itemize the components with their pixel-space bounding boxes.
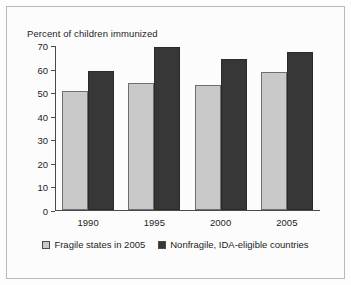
legend-label: Fragile states in 2005 bbox=[54, 239, 145, 250]
dark-swatch-icon bbox=[158, 241, 166, 249]
legend-label: Nonfragile, IDA-eligible countries bbox=[170, 239, 308, 250]
y-tick-label: 0 bbox=[43, 206, 48, 217]
y-tick-label: 70 bbox=[37, 41, 48, 52]
bar-2000-series-2[interactable] bbox=[221, 59, 247, 210]
y-tick-mark bbox=[51, 140, 55, 141]
y-axis-line bbox=[55, 46, 56, 211]
legend-entry-2[interactable]: Nonfragile, IDA-eligible countries bbox=[158, 239, 308, 250]
y-tick-label: 10 bbox=[37, 182, 48, 193]
y-tick-label: 60 bbox=[37, 64, 48, 75]
plot-area: 010203040506070 1990199520002005 bbox=[55, 46, 320, 211]
bar-1995-series-1[interactable] bbox=[128, 83, 154, 210]
bar-2000-series-1[interactable] bbox=[195, 85, 221, 210]
y-tick-mark bbox=[51, 93, 55, 94]
chart-figure: Percent of children immunized 0102030405… bbox=[0, 0, 351, 285]
bar-2005-series-2[interactable] bbox=[287, 52, 313, 210]
y-tick-label: 20 bbox=[37, 158, 48, 169]
x-tick-label-1990: 1990 bbox=[78, 217, 99, 228]
y-tick-mark bbox=[51, 70, 55, 71]
legend-entry-1[interactable]: Fragile states in 2005 bbox=[42, 239, 145, 250]
y-tick-label: 40 bbox=[37, 111, 48, 122]
x-tick-label-2000: 2000 bbox=[210, 217, 231, 228]
y-tick-label: 30 bbox=[37, 135, 48, 146]
y-tick-label: 50 bbox=[37, 88, 48, 99]
chart-legend: Fragile states in 2005Nonfragile, IDA-el… bbox=[0, 239, 351, 250]
x-axis-line bbox=[55, 210, 320, 211]
chart-title: Percent of children immunized bbox=[27, 28, 158, 39]
bar-1995-series-2[interactable] bbox=[154, 47, 180, 210]
light-swatch-icon bbox=[42, 241, 50, 249]
y-tick-mark bbox=[51, 117, 55, 118]
bar-1990-series-2[interactable] bbox=[88, 71, 114, 210]
y-tick-mark bbox=[51, 211, 55, 212]
y-tick-mark bbox=[51, 46, 55, 47]
x-tick-label-2005: 2005 bbox=[276, 217, 297, 228]
y-tick-mark bbox=[51, 164, 55, 165]
bar-2005-series-1[interactable] bbox=[261, 72, 287, 210]
bar-1990-series-1[interactable] bbox=[62, 91, 88, 210]
y-tick-mark bbox=[51, 187, 55, 188]
x-tick-label-1995: 1995 bbox=[144, 217, 165, 228]
